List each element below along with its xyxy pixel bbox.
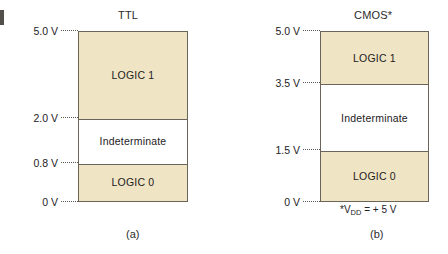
voltage-band-box-cmos: LOGIC 1 Indeterminate LOGIC 0 (320, 31, 429, 202)
voltage-band-box-ttl: LOGIC 1 Indeterminate LOGIC 0 (78, 31, 188, 202)
tick-ttl-0p8v: 0.8 V (10, 156, 78, 170)
band-label-ttl-logic-1: LOGIC 1 (112, 69, 155, 81)
band-divider-ttl-0p8v (79, 164, 187, 165)
band-label-ttl-logic-0: LOGIC 0 (112, 176, 155, 188)
tick-cmos-5v-value: 5.0 V (275, 25, 300, 37)
tick-ttl-0p8v-value: 0.8 V (33, 157, 58, 169)
tick-leader-icon (303, 201, 320, 203)
band-label-cmos-logic-1: LOGIC 1 (353, 52, 396, 64)
tick-leader-icon (303, 82, 320, 84)
band-divider-cmos-3p5v (321, 84, 428, 85)
tick-leader-icon (61, 30, 78, 32)
band-label-ttl-indeterminate: Indeterminate (100, 135, 167, 147)
panel-cmos: CMOS* LOGIC 1 Indeterminate LOGIC 0 5.0 … (224, 0, 448, 254)
figure-root: TTL LOGIC 1 Indeterminate LOGIC 0 5.0 V … (0, 0, 448, 254)
band-cmos-indeterminate: Indeterminate (321, 84, 428, 151)
panel-title-cmos: CMOS* (354, 9, 392, 21)
panel-ttl: TTL LOGIC 1 Indeterminate LOGIC 0 5.0 V … (0, 0, 224, 254)
footnote-vdd: *VDD = + 5 V (340, 204, 396, 215)
band-cmos-logic-0: LOGIC 0 (321, 151, 428, 201)
panel-title-ttl: TTL (118, 9, 138, 21)
band-label-cmos-indeterminate: Indeterminate (341, 112, 408, 124)
footnote-subscript: DD (351, 208, 362, 217)
tick-cmos-5v: 5.0 V (252, 24, 320, 38)
tick-ttl-0v-value: 0 V (42, 196, 58, 208)
band-cmos-logic-1: LOGIC 1 (321, 32, 428, 84)
footnote-prefix: *V (340, 204, 351, 215)
tick-ttl-2v-value: 2.0 V (33, 112, 58, 124)
tick-cmos-0v-value: 0 V (284, 196, 300, 208)
tick-cmos-3p5v: 3.5 V (252, 76, 320, 90)
tick-ttl-5v-value: 5.0 V (33, 25, 58, 37)
tick-leader-icon (303, 30, 320, 32)
tick-leader-icon (303, 149, 320, 151)
band-ttl-logic-1: LOGIC 1 (79, 32, 187, 119)
tick-cmos-3p5v-value: 3.5 V (275, 77, 300, 89)
tick-leader-icon (61, 162, 78, 164)
band-divider-cmos-1p5v (321, 151, 428, 152)
footnote-suffix: = + 5 V (361, 204, 396, 215)
tick-leader-icon (61, 117, 78, 119)
band-ttl-indeterminate: Indeterminate (79, 119, 187, 164)
band-divider-ttl-2v (79, 119, 187, 120)
panel-caption-b: (b) (370, 228, 383, 240)
tick-cmos-1p5v-value: 1.5 V (275, 144, 300, 156)
tick-ttl-0v: 0 V (10, 195, 78, 209)
panel-caption-a: (a) (126, 228, 139, 240)
tick-cmos-1p5v: 1.5 V (252, 143, 320, 157)
band-label-cmos-logic-0: LOGIC 0 (353, 170, 396, 182)
tick-cmos-0v: 0 V (252, 195, 320, 209)
tick-ttl-5v: 5.0 V (10, 24, 78, 38)
band-ttl-logic-0: LOGIC 0 (79, 164, 187, 202)
tick-leader-icon (61, 201, 78, 203)
tick-ttl-2v: 2.0 V (10, 111, 78, 125)
